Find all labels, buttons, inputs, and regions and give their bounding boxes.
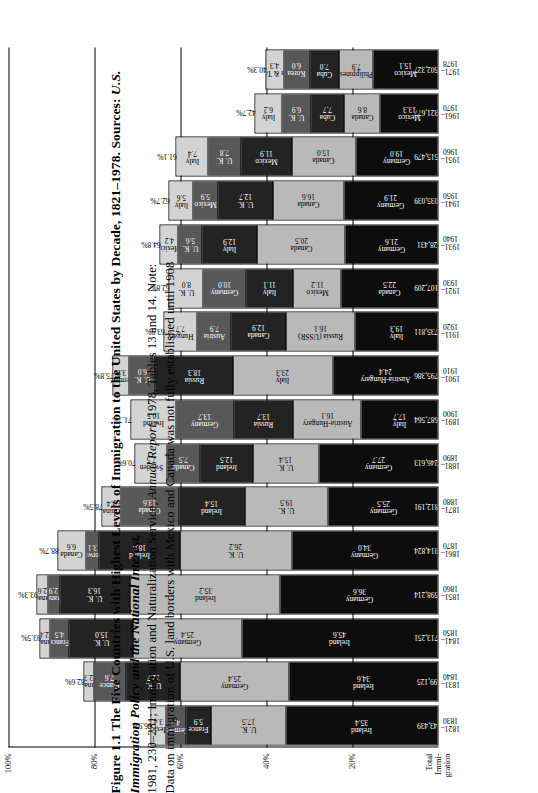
bar-segment-label: U. K.8.0 (177, 280, 193, 296)
bar-segment[interactable]: Mexico13.33,321,677 (380, 94, 437, 132)
x-tick-label: 1841–1850 (442, 614, 458, 658)
bar-segment[interactable]: Canada2.6 (37, 575, 48, 613)
bar-segment[interactable]: Austria7.9 (197, 312, 231, 350)
bar-segment-label: Italy11.1 (262, 280, 276, 296)
bar-segment[interactable]: U. K.6.9 (282, 94, 311, 132)
bar-segment[interactable]: Canada6.6 (58, 531, 86, 569)
bar-segment[interactable]: Canada2.3 (84, 662, 94, 700)
bar-segment[interactable]: France2.9 (48, 575, 60, 613)
bar-segment[interactable]: France5.9 (186, 706, 211, 744)
bar-segment[interactable]: China & Taiwan4.3 (266, 50, 284, 88)
bar-segment-label: Mexico11.9 (255, 148, 278, 164)
bar-segment[interactable]: Germany25.52,812,191 (328, 487, 437, 525)
bar-segment[interactable]: Ireland34.6599,125 (289, 662, 437, 700)
bar-segment[interactable]: Germany21.6528,431 (345, 225, 437, 263)
bar-segment[interactable]: Canada20.5 (257, 225, 345, 263)
bar-segment[interactable]: Canada22.54,107,209 (341, 269, 437, 307)
bar-segment[interactable]: Austria-Hungary16.1 (293, 400, 362, 438)
bar-segment[interactable]: Ireland35.4143,439 (286, 706, 437, 744)
bar-segment[interactable]: U. K.12.7 (218, 181, 272, 219)
bar-column: Ireland34.6599,125Germany25.4U. K.12.7Fr… (8, 661, 438, 701)
stacked-bar[interactable]: Mexico13.33,321,677Canada8.6Cuba7.7U. K.… (254, 93, 438, 133)
bar-segment[interactable]: Russia13.7 (234, 400, 293, 438)
bar-segment[interactable]: Ireland12.5 (200, 444, 253, 482)
bar-segment[interactable]: Germany21.91,035,039 (344, 181, 437, 219)
bar-segment[interactable]: U. K.15.4 (253, 444, 319, 482)
bar-segment-label: U. K.26.2 (227, 542, 243, 558)
bar-segment[interactable]: Cuba7.7 (311, 94, 344, 132)
bar-segment[interactable]: U. K.19.5 (245, 487, 328, 525)
bar-segment[interactable]: Germany36.62,598,214 (280, 575, 437, 613)
figure-title: The Five Countries with Highest Levels o… (108, 98, 123, 730)
bar-segment[interactable]: Germany13.7 (176, 400, 235, 438)
bar-segment[interactable]: Norway3.1 (86, 531, 99, 569)
bar-segment[interactable]: Ireland45.61,713,251 (242, 619, 437, 657)
column-total-label: 528,431 (417, 225, 435, 263)
bar-segment[interactable]: Italy6.2 (255, 94, 281, 132)
bar-segment[interactable]: Canada15.0 (292, 137, 356, 175)
bar-segment[interactable]: Canada16.6 (273, 181, 344, 219)
bar-segment[interactable]: U. K.5.6 (178, 225, 202, 263)
bar-segment-label: Ireland35.2 (194, 586, 215, 602)
bar-column: Italy19.35,735,811Russia (USSR)16.1Canad… (8, 311, 438, 351)
bar-segment[interactable]: Ireland15.4 (179, 487, 245, 525)
bar-segment[interactable]: Germany10.0 (203, 269, 246, 307)
stacked-bar[interactable]: Canada22.54,107,209Mexico11.2Italy11.1Ge… (168, 268, 438, 308)
column-top5-percent: 40.3% (252, 47, 261, 91)
bar-segment[interactable]: Italy7.4 (176, 137, 208, 175)
bar-segment[interactable]: Cuba7.0 (310, 50, 340, 88)
bar-segment-label: Germany13.7 (191, 411, 219, 427)
column-total-label: 1,713,251 (417, 619, 435, 657)
bar-segment[interactable]: Canada2.4 (40, 619, 50, 657)
bar-segment[interactable]: Mexico5.9 (193, 181, 218, 219)
x-axis-labels: 1821–18301831–18401841–18501851–18601861… (440, 47, 480, 747)
bar-segment[interactable]: Germany19.02,515,479 (356, 137, 437, 175)
bar-column: Germany19.02,515,479Canada15.0Mexico11.9… (8, 136, 438, 176)
bar-segment[interactable]: Canada8.6 (344, 94, 381, 132)
bar-segment-label: Canada6.6 (60, 542, 82, 558)
x-tick-label: 1951–1960 (442, 132, 458, 176)
y-tick-label: TotalImmi-gration (424, 753, 451, 777)
bar-column: Germany36.62,598,214Ireland35.2U. K.16.3… (8, 574, 438, 614)
bar-segment[interactable]: Philippines7.9 (339, 50, 373, 88)
stacked-bar[interactable]: Germany21.6528,431Canada20.5Italy12.9U. … (159, 224, 438, 264)
bar-segment[interactable]: Mexico11.2 (293, 269, 341, 307)
stacked-bar[interactable]: Germany21.91,035,039Canada16.6U. K.12.7M… (168, 180, 438, 220)
bar-segment-label: U. K.7.8 (216, 148, 232, 164)
caption-line-2: 1981, 230–231; Immigration and Naturaliz… (144, 0, 162, 793)
bar-segment[interactable]: Mexico11.9 (241, 137, 292, 175)
bar-segment[interactable]: Korea6.0 (284, 50, 310, 88)
caption-source-italic-2: Annual Report, (145, 420, 159, 498)
bar-segment[interactable]: Germany27.75,246,613 (319, 444, 437, 482)
bar-segment[interactable]: U. K.17.5 (211, 706, 286, 744)
bar-column: Mexico13.33,321,677Canada8.6Cuba7.7U. K.… (8, 93, 438, 133)
x-tick-label: 1941–1950 (442, 176, 458, 220)
stacked-bar[interactable]: Ireland35.4143,439U. K.17.5France5.9Germ… (150, 705, 438, 745)
stacked-bar[interactable]: Germany36.62,598,214Ireland35.2U. K.16.3… (36, 574, 438, 614)
stacked-bar[interactable]: Mexico15.13,502,327Philippines7.9Cuba7.0… (265, 49, 438, 89)
figure-caption-rotated: Figure 1.1 The Five Countries with Highe… (106, 0, 180, 793)
stacked-bar[interactable]: Germany27.75,246,613U. K.15.4Ireland12.5… (134, 443, 438, 483)
bar-segment[interactable]: Mexico15.13,502,327 (373, 50, 437, 88)
bar-segment-label: Canada2.4 (40, 630, 50, 646)
bar-segment-label: Ireland15.4 (201, 498, 222, 514)
column-top5-percent: 93.5% (26, 616, 35, 660)
bar-segment[interactable]: Germany34.02,314,824 (292, 531, 437, 569)
bar-segment-label: Ireland45.6 (329, 630, 350, 646)
stacked-bar[interactable]: Germany19.02,515,479Canada15.0Mexico11.9… (175, 136, 438, 176)
stacked-bar[interactable]: Italy19.35,735,811Russia (USSR)16.1Canad… (163, 311, 438, 351)
bar-segment[interactable]: Austria-Hungary24.48,795,386 (333, 356, 437, 394)
bar-segment[interactable]: U. K.7.8 (208, 137, 241, 175)
bar-segment[interactable]: Russia (USSR)16.1 (286, 312, 355, 350)
bar-segment-label: U. K.12.7 (237, 192, 253, 208)
bar-segment[interactable]: France4.5 (50, 619, 69, 657)
bar-segment[interactable]: Germany25.4 (180, 662, 289, 700)
bar-segment[interactable]: Italy23.3 (233, 356, 333, 394)
stacked-bar[interactable]: Ireland45.61,713,251Germany25.4U. K.15.0… (39, 618, 438, 658)
bar-segment[interactable]: Canada12.9 (231, 312, 286, 350)
bar-segment[interactable]: Italy19.35,735,811 (355, 312, 437, 350)
bar-segment[interactable]: Italy12.9 (202, 225, 257, 263)
bar-segment[interactable]: Italy11.1 (246, 269, 293, 307)
bar-segment[interactable]: U. K.26.2 (180, 531, 292, 569)
bar-segment[interactable]: Italy17.73,687,564 (361, 400, 437, 438)
